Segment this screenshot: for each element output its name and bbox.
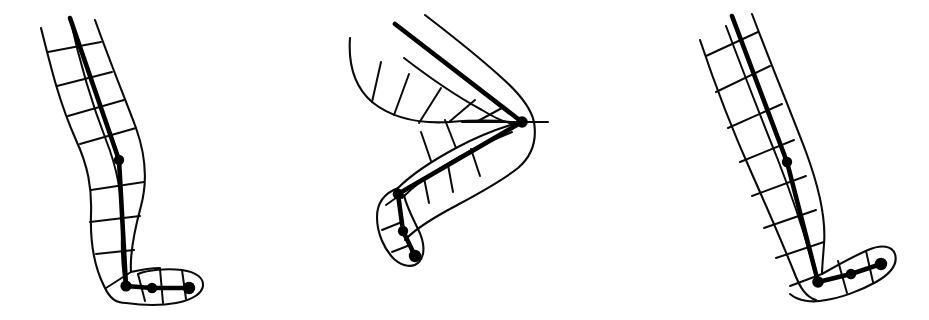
pose-left-toe-tip-joint bbox=[183, 282, 195, 294]
pose-left-midfoot-joint bbox=[147, 283, 157, 293]
pose-right-midfoot-joint bbox=[846, 269, 856, 279]
pose-middle-midfoot-joint bbox=[398, 226, 408, 236]
pose-middle-knee-joint bbox=[516, 116, 528, 128]
pose-left-ankle-joint bbox=[120, 280, 131, 291]
pose-left-foot-bone bbox=[126, 286, 189, 288]
limb-pose-figure-panel bbox=[0, 0, 929, 320]
pose-middle-toe-tip-joint bbox=[409, 250, 421, 262]
pose-right-toe-tip-joint bbox=[875, 258, 887, 270]
limb-pose-diagram bbox=[0, 0, 929, 320]
pose-right-knee-joint bbox=[782, 157, 792, 167]
pose-right-ankle-joint bbox=[812, 276, 824, 288]
pose-left-knee-joint bbox=[114, 155, 124, 165]
pose-middle-ankle-joint bbox=[393, 189, 404, 200]
